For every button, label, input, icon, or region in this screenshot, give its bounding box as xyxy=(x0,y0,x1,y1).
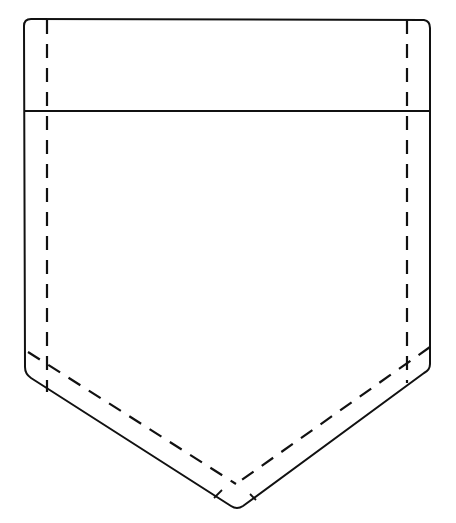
bottom-left-stitch-line xyxy=(28,352,236,484)
pocket-diagram xyxy=(0,0,456,523)
pocket-outline xyxy=(24,19,430,508)
bottom-right-stitch-line xyxy=(236,347,430,484)
